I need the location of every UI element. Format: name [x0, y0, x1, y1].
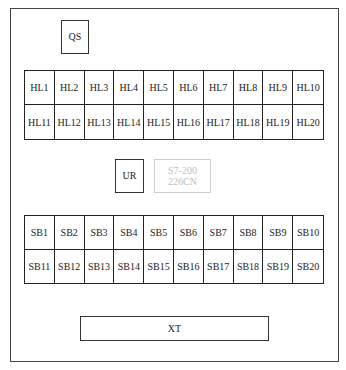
- sb-cell: SB7: [204, 216, 234, 250]
- hl-cell: HL1: [25, 71, 55, 105]
- hl-cell: HL9: [263, 71, 293, 105]
- sb-cell: SB20: [293, 250, 323, 284]
- hl-cell: HL14: [114, 105, 144, 139]
- sb-cell: SB2: [55, 216, 85, 250]
- hl-cell: HL6: [174, 71, 204, 105]
- plc-model-line1: S7-200: [168, 165, 197, 177]
- xt-terminal-block: XT: [80, 316, 269, 341]
- xt-label: XT: [168, 323, 181, 335]
- sb-cell: SB14: [114, 250, 144, 284]
- sb-cell: SB12: [55, 250, 85, 284]
- button-grid: SB1 SB2 SB3 SB4 SB5 SB6 SB7 SB8 SB9 SB10…: [24, 215, 324, 284]
- sb-cell: SB18: [234, 250, 264, 284]
- ur-label: UR: [123, 170, 137, 182]
- plc-box: S7-200 226CN: [154, 159, 211, 193]
- sb-cell: SB9: [263, 216, 293, 250]
- hl-cell: HL10: [293, 71, 323, 105]
- hl-cell: HL2: [55, 71, 85, 105]
- qs-breaker-box: QS: [61, 20, 89, 54]
- hl-cell: HL13: [85, 105, 115, 139]
- sb-cell: SB6: [174, 216, 204, 250]
- sb-cell: SB15: [144, 250, 174, 284]
- sb-cell: SB11: [25, 250, 55, 284]
- hl-cell: HL12: [55, 105, 85, 139]
- hl-cell: HL11: [25, 105, 55, 139]
- sb-cell: SB3: [85, 216, 115, 250]
- hl-cell: HL17: [204, 105, 234, 139]
- sb-cell: SB1: [25, 216, 55, 250]
- sb-cell: SB8: [234, 216, 264, 250]
- sb-cell: SB19: [263, 250, 293, 284]
- sb-cell: SB5: [144, 216, 174, 250]
- hl-cell: HL19: [263, 105, 293, 139]
- hl-cell: HL7: [204, 71, 234, 105]
- hl-cell: HL3: [85, 71, 115, 105]
- hl-cell: HL18: [234, 105, 264, 139]
- sb-cell: SB10: [293, 216, 323, 250]
- hl-cell: HL15: [144, 105, 174, 139]
- sb-cell: SB13: [85, 250, 115, 284]
- indicator-light-grid: HL1 HL2 HL3 HL4 HL5 HL6 HL7 HL8 HL9 HL10…: [24, 70, 324, 140]
- sb-cell: SB17: [204, 250, 234, 284]
- hl-cell: HL5: [144, 71, 174, 105]
- plc-model-line2: 226CN: [168, 176, 197, 188]
- hl-cell: HL20: [293, 105, 323, 139]
- sb-cell: SB4: [114, 216, 144, 250]
- hl-cell: HL8: [234, 71, 264, 105]
- hl-cell: HL4: [114, 71, 144, 105]
- hl-cell: HL16: [174, 105, 204, 139]
- ur-box: UR: [115, 159, 144, 193]
- sb-cell: SB16: [174, 250, 204, 284]
- qs-label: QS: [69, 31, 82, 43]
